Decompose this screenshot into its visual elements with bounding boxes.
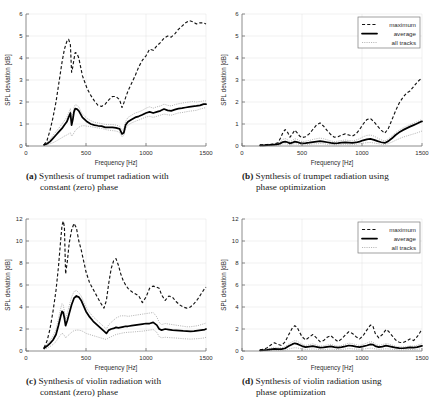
- y-tick-label: 3: [19, 77, 23, 83]
- x-tick-label: 1000: [139, 150, 153, 156]
- curve-maximum: [260, 78, 422, 145]
- caption-c-tag: (c): [26, 376, 36, 386]
- x-axis-label: Frequency [Hz]: [95, 159, 138, 167]
- x-tick-label: 0: [24, 150, 28, 156]
- legend-item-average-label: average: [394, 235, 417, 242]
- y-tick-label: 8: [19, 260, 23, 266]
- y-tick-label: 6: [235, 282, 239, 288]
- y-tick-label: 1: [19, 121, 23, 127]
- panel-a: 0123456050010001500Frequency [Hz]SPL dev…: [0, 0, 216, 194]
- y-tick-label: 0: [19, 143, 23, 149]
- y-tick-label: 8: [235, 260, 239, 266]
- panel-c: 024681012050010001500Frequency [Hz]SPL d…: [0, 205, 216, 399]
- caption-d-line2: phase optimization: [242, 387, 418, 398]
- y-tick-label: 4: [19, 55, 23, 61]
- x-tick-label: 1000: [355, 355, 369, 361]
- x-tick-label: 500: [297, 150, 308, 156]
- y-tick-label: 10: [16, 238, 23, 244]
- legend-item-maximum-label: maximum: [389, 21, 416, 28]
- x-tick-label: 1000: [139, 355, 153, 361]
- y-tick-label: 6: [19, 11, 23, 17]
- y-tick-label: 0: [19, 348, 23, 354]
- y-tick-label: 5: [235, 33, 239, 39]
- caption-b-tag: (b): [242, 171, 253, 181]
- y-tick-label: 6: [19, 282, 23, 288]
- x-tick-label: 1500: [415, 150, 429, 156]
- plot-c: 024681012050010001500Frequency [Hz]SPL d…: [0, 205, 216, 375]
- curve-maximum: [44, 221, 206, 348]
- caption-a-line2: constant (zero) phase: [26, 182, 202, 193]
- curve-average: [44, 104, 206, 145]
- caption-a-line1: Synthesis of trumpet radiation with: [39, 171, 169, 181]
- caption-c-line2: constant (zero) phase: [26, 387, 202, 398]
- x-tick-label: 0: [240, 150, 244, 156]
- y-tick-label: 2: [235, 326, 239, 332]
- x-tick-label: 1500: [199, 355, 213, 361]
- y-tick-label: 3: [235, 77, 239, 83]
- y-tick-label: 0: [235, 348, 239, 354]
- caption-a-tag: (a): [26, 171, 37, 181]
- caption-d-line1: Synthesis of violin radiation using: [256, 376, 382, 386]
- y-tick-label: 10: [232, 238, 239, 244]
- y-tick-label: 5: [19, 33, 23, 39]
- y-tick-label: 0: [235, 143, 239, 149]
- y-tick-label: 12: [16, 216, 23, 222]
- x-tick-label: 500: [81, 150, 92, 156]
- x-axis-label: Frequency [Hz]: [95, 364, 138, 372]
- chart-svg-a: 0123456050010001500Frequency [Hz]SPL dev…: [0, 0, 216, 170]
- plot-d: 024681012050010001500Frequency [Hz]SPL d…: [216, 205, 432, 375]
- x-tick-label: 500: [297, 355, 308, 361]
- y-tick-label: 1: [235, 121, 239, 127]
- y-tick-label: 4: [235, 304, 239, 310]
- plot-a: 0123456050010001500Frequency [Hz]SPL dev…: [0, 0, 216, 170]
- y-axis-label: SPL deviation [dB]: [4, 259, 12, 311]
- curve-all-tracks-lower: [44, 330, 206, 350]
- y-tick-label: 2: [235, 99, 239, 105]
- caption-c-line1: Synthesis of violin radiation with: [39, 376, 162, 386]
- caption-c: (c) Synthesis of violin radiation with c…: [0, 375, 216, 399]
- curve-average: [260, 121, 422, 145]
- caption-a: (a) Synthesis of trumpet radiation with …: [0, 170, 216, 194]
- x-tick-label: 0: [240, 355, 244, 361]
- y-tick-label: 2: [19, 99, 23, 105]
- legend-item-all-tracks-label: all tracks: [392, 39, 416, 46]
- caption-b-line2: phase optimization: [242, 182, 418, 193]
- x-axis-label: Frequency [Hz]: [311, 364, 354, 372]
- plot-b: 0123456050010001500Frequency [Hz]SPL dev…: [216, 0, 432, 170]
- caption-d-tag: (d): [242, 376, 253, 386]
- caption-b-line1: Synthesis of trumpet radiation using: [256, 171, 389, 181]
- y-tick-label: 12: [232, 216, 239, 222]
- x-tick-label: 1000: [355, 150, 369, 156]
- figure-four-panel-spl-deviation: 0123456050010001500Frequency [Hz]SPL dev…: [0, 0, 432, 418]
- y-tick-label: 4: [19, 304, 23, 310]
- y-tick-label: 2: [19, 326, 23, 332]
- panel-b: 0123456050010001500Frequency [Hz]SPL dev…: [216, 0, 432, 194]
- chart-svg-b: 0123456050010001500Frequency [Hz]SPL dev…: [216, 0, 432, 170]
- caption-b: (b) Synthesis of trumpet radiation using…: [216, 170, 432, 194]
- x-tick-label: 1500: [415, 355, 429, 361]
- curve-average: [44, 296, 206, 348]
- legend-item-maximum-label: maximum: [389, 226, 416, 233]
- x-tick-label: 500: [81, 355, 92, 361]
- caption-d: (d) Synthesis of violin radiation using …: [216, 375, 432, 399]
- chart-svg-d: 024681012050010001500Frequency [Hz]SPL d…: [216, 205, 432, 375]
- y-axis-label: SPL deviation [dB]: [4, 54, 12, 106]
- legend-item-average-label: average: [394, 30, 417, 37]
- x-axis-label: Frequency [Hz]: [311, 159, 354, 167]
- y-axis-label: SPL deviation [dB]: [220, 54, 228, 106]
- x-tick-label: 1500: [199, 150, 213, 156]
- y-tick-label: 4: [235, 55, 239, 61]
- legend-item-all-tracks-label: all tracks: [392, 244, 416, 251]
- panel-d: 024681012050010001500Frequency [Hz]SPL d…: [216, 205, 432, 399]
- x-tick-label: 0: [24, 355, 28, 361]
- y-axis-label: SPL deviation [dB]: [220, 259, 228, 311]
- y-tick-label: 6: [235, 11, 239, 17]
- chart-svg-c: 024681012050010001500Frequency [Hz]SPL d…: [0, 205, 216, 375]
